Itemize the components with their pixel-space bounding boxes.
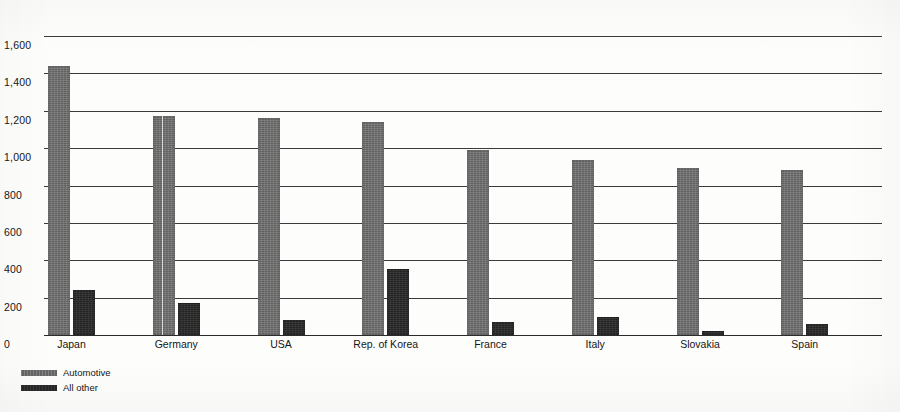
bar-chart: 02004006008001,0001,2001,4001,600 JapanG… [0, 0, 900, 412]
bar-group [362, 36, 409, 335]
scan-streak-artifact [162, 116, 164, 335]
bar-group [48, 36, 95, 335]
y-tick-label-1000: 1,000 [4, 151, 31, 163]
bar-group [781, 36, 828, 335]
x-axis-label: France [474, 338, 507, 350]
bar-all-other [73, 290, 95, 335]
bar-all-other [702, 331, 724, 335]
y-tick-label-600: 600 [4, 226, 22, 238]
x-axis-label: USA [270, 338, 292, 350]
bar-all-other [806, 324, 828, 335]
x-axis-labels: JapanGermanyUSARep. of KoreaFranceItalyS… [44, 338, 882, 356]
y-tick-label-1600: 1,600 [4, 39, 31, 51]
legend-swatch-automotive [21, 370, 57, 376]
bar-all-other [492, 322, 514, 335]
bar-group [467, 36, 514, 335]
y-tick-label-800: 800 [4, 189, 22, 201]
gridline-0 [44, 335, 882, 336]
bar-automotive [258, 118, 280, 335]
bar-all-other [283, 320, 305, 335]
bar-group [677, 36, 724, 335]
bar-automotive [677, 168, 699, 335]
chart-legend: Automotive All other [21, 366, 261, 396]
y-tick-label-400: 400 [4, 263, 22, 275]
bar-group [258, 36, 305, 335]
x-axis-label: Italy [586, 338, 605, 350]
legend-item-all-other: All other [21, 381, 261, 394]
bar-all-other [597, 317, 619, 335]
x-axis-label: Japan [57, 338, 86, 350]
legend-label-all-other: All other [63, 382, 98, 393]
x-axis-label: Rep. of Korea [353, 338, 418, 350]
y-tick-label-0: 0 [4, 338, 10, 350]
x-axis-label: Slovakia [680, 338, 720, 350]
bar-group [572, 36, 619, 335]
bar-automotive [153, 116, 175, 335]
bar-all-other [178, 303, 200, 335]
bar-automotive [48, 66, 70, 335]
bar-automotive [362, 122, 384, 335]
y-tick-label-1400: 1,400 [4, 76, 31, 88]
bars-layer [44, 36, 882, 335]
bar-all-other [387, 269, 409, 335]
y-tick-label-200: 200 [4, 301, 22, 313]
x-axis-label: Germany [155, 338, 198, 350]
bar-automotive [467, 150, 489, 335]
bar-group [153, 36, 200, 335]
bar-automotive [572, 160, 594, 335]
x-axis-label: Spain [791, 338, 818, 350]
bar-automotive [781, 170, 803, 335]
legend-item-automotive: Automotive [21, 366, 261, 379]
legend-label-automotive: Automotive [63, 367, 111, 378]
y-tick-label-1200: 1,200 [4, 114, 31, 126]
legend-swatch-all-other [21, 385, 57, 391]
